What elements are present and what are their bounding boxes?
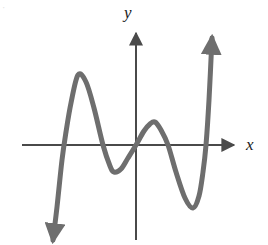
y-axis-label: y (124, 4, 132, 21)
coordinate-plane (0, 0, 268, 245)
polynomial-curve (53, 38, 212, 240)
x-axis-label: x (246, 136, 254, 153)
graph-figure: · y x (0, 0, 268, 245)
